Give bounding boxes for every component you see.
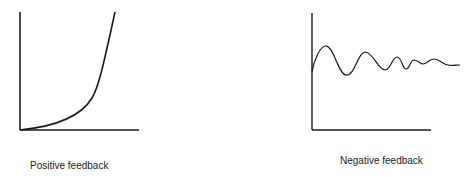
positive-feedback-curve xyxy=(20,12,115,130)
negative-feedback-caption: Negative feedback xyxy=(340,155,423,166)
negative-feedback-curve xyxy=(312,46,460,75)
negative-feedback-graph xyxy=(312,13,460,130)
positive-feedback-caption: Positive feedback xyxy=(30,160,108,171)
positive-feedback-graph xyxy=(20,12,139,130)
